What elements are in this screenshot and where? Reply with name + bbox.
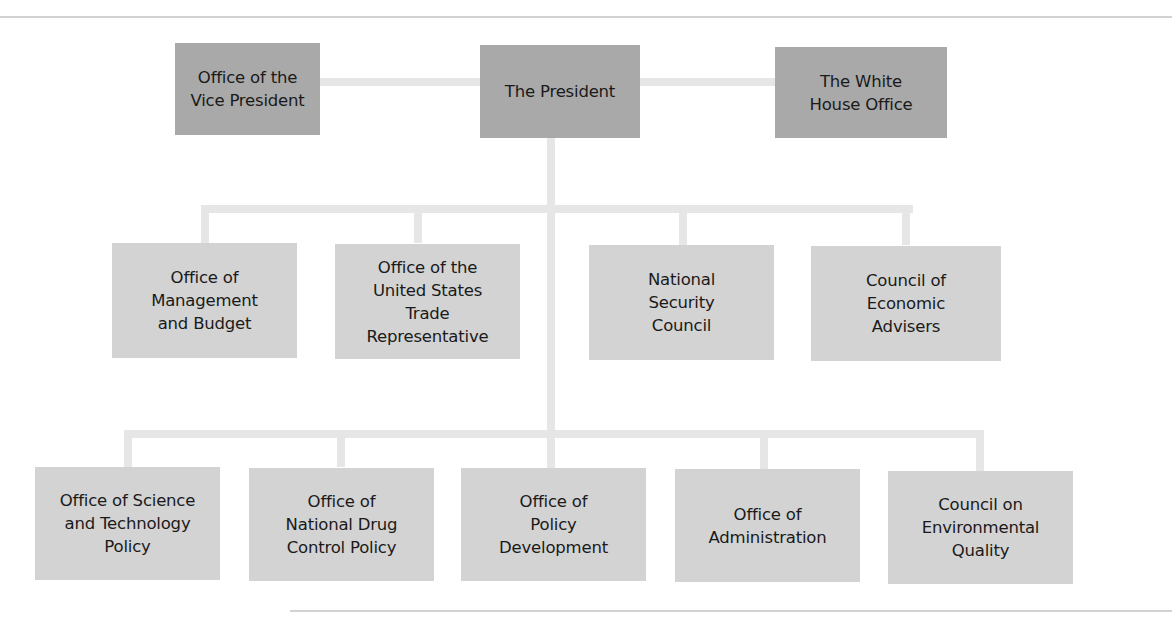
connector-drop-ceq [976,430,984,471]
connector-vp-president [320,78,480,86]
connector-drop-ustr [414,205,422,243]
connector-drop-ondcp [337,430,345,467]
connector-trunk [547,138,555,468]
connector-bus-row3 [124,430,984,438]
bottom-rule [290,610,1172,612]
top-rule [0,16,1172,18]
box-office-of-policy-development: Office of Policy Development [461,468,646,581]
box-office-of-the-vice-president: Office of the Vice President [175,43,320,135]
connector-drop-ostp [124,430,132,467]
box-council-on-environmental-quality: Council on Environmental Quality [888,471,1073,584]
box-office-of-management-and-budget: Office of Management and Budget [112,243,297,358]
connector-drop-omb [201,205,209,243]
box-the-president: The President [480,45,640,138]
connector-bus-row2 [201,205,913,213]
box-office-of-national-drug-control-policy: Office of National Drug Control Policy [249,468,434,581]
connector-drop-cea [902,205,910,245]
connector-drop-oa [760,430,768,469]
box-office-of-the-us-trade-representative: Office of the United States Trade Repres… [335,244,520,359]
box-council-of-economic-advisers: Council of Economic Advisers [811,246,1001,361]
box-office-of-administration: Office of Administration [675,469,860,582]
box-national-security-council: National Security Council [589,245,774,360]
connector-president-whitehouse [640,78,775,86]
box-the-white-house-office: The White House Office [775,47,947,138]
connector-drop-nsc [679,205,687,245]
box-office-of-science-and-technology-policy: Office of Science and Technology Policy [35,467,220,580]
